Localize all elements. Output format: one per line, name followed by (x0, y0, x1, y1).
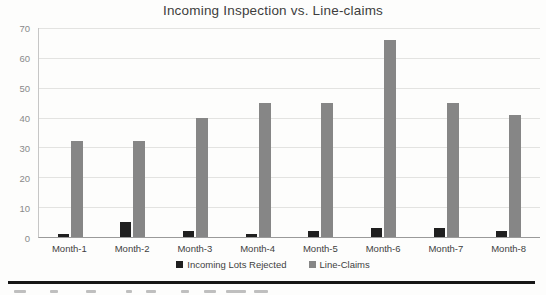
plot-area (38, 28, 540, 238)
y-tick-label: 0 (25, 233, 30, 244)
legend-label: Incoming Lots Rejected (187, 259, 286, 270)
bar (71, 141, 83, 237)
bar-group-month-8 (477, 28, 540, 237)
x-tick-label: Month-2 (101, 240, 164, 254)
bar (196, 118, 208, 237)
x-tick-label: Month-3 (164, 240, 227, 254)
y-tick-label: 20 (19, 173, 30, 184)
bar (246, 234, 257, 237)
clipped-text-mark (86, 290, 96, 293)
bar-group-month-3 (164, 28, 227, 237)
legend-item: Line-Claims (309, 259, 370, 270)
x-tick-label: Month-6 (352, 240, 415, 254)
bar-group-month-1 (39, 28, 102, 237)
bar (120, 222, 131, 237)
clipped-text-mark (181, 290, 189, 293)
clipped-text-mark (14, 290, 26, 293)
bar (133, 141, 145, 237)
bar (447, 103, 459, 237)
chart-screenshot: Incoming Inspection vs. Line-claims 0102… (0, 0, 546, 295)
bar (371, 228, 382, 237)
chart-title: Incoming Inspection vs. Line-claims (0, 3, 546, 18)
legend-item: Incoming Lots Rejected (176, 259, 286, 270)
x-axis: Month-1Month-2Month-3Month-4Month-5Month… (38, 240, 540, 254)
x-tick-label: Month-7 (415, 240, 478, 254)
bar-group-month-7 (415, 28, 478, 237)
x-tick-label: Month-1 (38, 240, 101, 254)
x-tick-label: Month-8 (477, 240, 540, 254)
legend-label: Line-Claims (320, 259, 370, 270)
bar (58, 234, 69, 237)
bar (384, 40, 396, 237)
y-tick-label: 10 (19, 203, 30, 214)
y-axis: 010203040506070 (0, 28, 34, 238)
y-tick-label: 40 (19, 113, 30, 124)
clipped-text-mark (50, 290, 58, 293)
y-tick-label: 60 (19, 53, 30, 64)
bar-groups (39, 28, 540, 237)
legend: Incoming Lots RejectedLine-Claims (0, 259, 546, 270)
bar-group-month-5 (290, 28, 353, 237)
clipped-text-fragment (0, 290, 546, 295)
bar (509, 115, 521, 237)
bar (434, 228, 445, 237)
clipped-text-mark (126, 290, 132, 293)
bar-group-month-4 (227, 28, 290, 237)
clipped-text-mark (204, 290, 216, 293)
x-tick-label: Month-4 (226, 240, 289, 254)
bar (259, 103, 271, 237)
y-tick-label: 50 (19, 83, 30, 94)
bar-group-month-2 (102, 28, 165, 237)
clipped-text-mark (254, 290, 268, 293)
clipped-text-mark (226, 290, 246, 293)
y-tick-label: 30 (19, 143, 30, 154)
bar (308, 231, 319, 237)
legend-swatch-icon (176, 261, 183, 268)
clipped-text-mark (146, 290, 156, 293)
legend-swatch-icon (309, 261, 316, 268)
bar (496, 231, 507, 237)
bar (183, 231, 194, 237)
bar (321, 103, 333, 237)
divider-rule (8, 281, 535, 284)
y-tick-label: 70 (19, 23, 30, 34)
x-tick-label: Month-5 (289, 240, 352, 254)
bar-group-month-6 (352, 28, 415, 237)
